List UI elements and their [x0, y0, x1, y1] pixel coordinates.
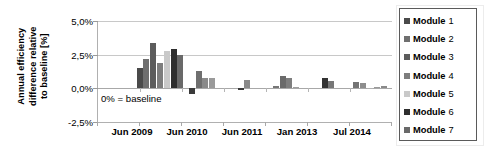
- y-axis-title-line-2: difference relative: [27, 26, 39, 106]
- x-tick-label: Jun 2010: [166, 126, 207, 137]
- y-tick-label: -2,5%: [53, 117, 93, 128]
- bar: [280, 76, 286, 88]
- bar: [137, 68, 143, 88]
- bar: [353, 82, 359, 89]
- bar: [143, 59, 149, 89]
- y-axis-tick-labels: 5,0% 2,5% 0,0% -2,5%: [48, 0, 93, 155]
- legend-item-label: Module: [413, 71, 446, 81]
- bar: [286, 78, 292, 88]
- bar: [202, 78, 208, 89]
- bar: [328, 81, 334, 88]
- legend: Module1Module2Module3Module4Module5Modul…: [399, 8, 477, 141]
- legend-item-number: 3: [449, 52, 454, 62]
- x-tickmark: [265, 122, 266, 126]
- legend-item[interactable]: Module4: [404, 67, 473, 85]
- baseline-annotation: 0% = baseline: [101, 93, 162, 104]
- legend-color-swatch-icon: [404, 91, 410, 97]
- x-tickmark: [97, 122, 98, 126]
- legend-color-swatch-icon: [404, 18, 410, 24]
- plot-area: [97, 21, 392, 122]
- legend-color-swatch-icon: [404, 36, 410, 42]
- bar: [374, 87, 380, 88]
- legend-item-label: Module: [413, 52, 446, 62]
- legend-color-swatch-icon: [404, 73, 410, 79]
- x-tick-label: Jun 2009: [111, 126, 152, 137]
- legend-color-swatch-icon: [404, 54, 410, 60]
- bar: [293, 87, 299, 88]
- legend-item-number: 1: [449, 16, 454, 26]
- legend-item-label: Module: [413, 125, 446, 135]
- y-tick-label: 2,5%: [53, 49, 93, 60]
- y-tick-label: 0,0%: [53, 83, 93, 94]
- legend-item[interactable]: Module1: [404, 12, 473, 30]
- legend-color-swatch-icon: [404, 109, 410, 115]
- legend-item-label: Module: [413, 34, 446, 44]
- bar: [238, 88, 244, 90]
- bar: [209, 78, 215, 88]
- bar: [157, 63, 163, 88]
- legend-item-number: 7: [449, 125, 454, 135]
- bar: [189, 88, 195, 94]
- bar: [322, 78, 328, 88]
- bar: [177, 55, 183, 89]
- bar: [196, 71, 202, 89]
- gridline-zero: [98, 88, 392, 89]
- legend-item[interactable]: Module2: [404, 30, 473, 48]
- legend-item-label: Module: [413, 107, 446, 117]
- legend-item-label: Module: [413, 16, 446, 26]
- x-tick-label: Jan 2013: [277, 126, 318, 137]
- y-tickmark: [93, 21, 98, 22]
- x-tick-label: Jun 2011: [222, 126, 263, 137]
- legend-item-number: 6: [449, 107, 454, 117]
- bar: [171, 49, 177, 88]
- legend-item-label: Module: [413, 89, 446, 99]
- gridline-2-5: [98, 55, 392, 56]
- legend-item-number: 4: [449, 71, 454, 81]
- y-tickmark: [93, 88, 98, 89]
- bar: [381, 86, 387, 88]
- legend-item[interactable]: Module5: [404, 85, 473, 103]
- bar: [360, 83, 366, 88]
- legend-item-number: 5: [449, 89, 454, 99]
- gridline-5-0: [98, 21, 392, 22]
- category-separator-tick: [308, 88, 309, 92]
- legend-item[interactable]: Module3: [404, 48, 473, 66]
- category-separator-tick: [350, 88, 351, 92]
- category-separator-tick: [224, 88, 225, 92]
- bar: [273, 86, 279, 89]
- legend-item-number: 2: [449, 34, 454, 44]
- bar: [164, 51, 170, 88]
- x-axis-line: [97, 122, 391, 123]
- x-tickmark: [391, 122, 392, 126]
- legend-color-swatch-icon: [404, 127, 410, 133]
- bar: [150, 43, 156, 88]
- legend-item[interactable]: Module7: [404, 121, 473, 139]
- y-tickmark: [93, 55, 98, 56]
- category-separator-tick: [182, 88, 183, 92]
- bar: [244, 80, 250, 89]
- y-tick-label: 5,0%: [53, 16, 93, 27]
- category-separator-tick: [266, 88, 267, 92]
- x-tick-label: Jul 2014: [333, 126, 371, 137]
- y-axis-title-line-1: Annual efficiency: [16, 26, 28, 106]
- legend-item[interactable]: Module6: [404, 103, 473, 121]
- chart-figure: Annual efficiency difference relative to…: [0, 0, 489, 155]
- category-separator-tick: [140, 88, 141, 92]
